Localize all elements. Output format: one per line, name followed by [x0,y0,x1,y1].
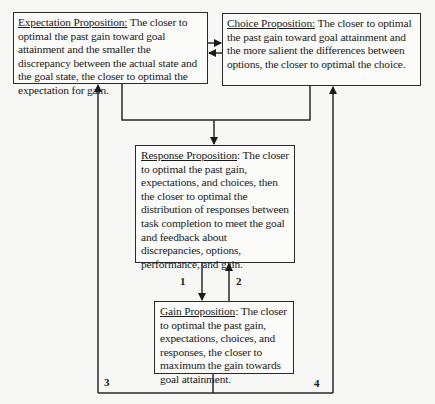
choice-proposition-box: Choice Proposition: The closer to optima… [222,13,421,86]
gain-proposition-box: Gain Proposition: The closer to optimal … [154,301,294,374]
path-label-1: 1 [180,275,186,287]
expectation-proposition-box: Expectation Proposition: The closer to o… [13,12,208,84]
response-title: Response Proposition [141,149,237,161]
path-label-2: 2 [236,275,242,287]
merge-line [122,84,310,120]
response-proposition-box: Response Proposition: The closer to opti… [135,145,295,263]
expectation-title: Expectation Proposition: [18,16,127,28]
choice-title: Choice Proposition: [227,17,315,29]
response-text: : The closer to optimal the past gain, e… [141,149,289,270]
path-label-3: 3 [104,376,110,388]
gain-title: Gain Proposition [160,305,235,317]
path-label-4: 4 [314,377,320,389]
